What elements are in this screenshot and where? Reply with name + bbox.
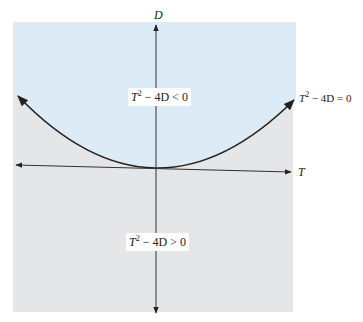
d-axis-label: D [154,9,163,21]
parabola-label: T2 − 4D = 0 [299,93,351,104]
upper-region-label: T2 − 4D < 0 [128,88,191,106]
diagram-canvas [0,0,363,322]
t-axis-label: T [298,166,305,178]
lower-region-label: T2 − 4D > 0 [126,233,189,251]
